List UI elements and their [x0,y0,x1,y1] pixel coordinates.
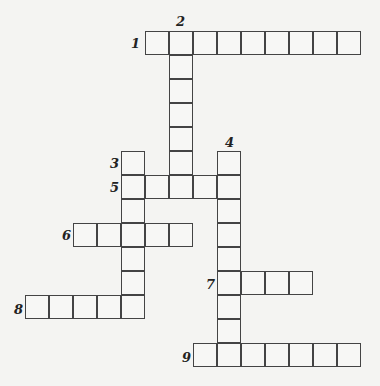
crossword-cell[interactable] [289,271,313,295]
crossword-cell[interactable] [169,223,193,247]
clue-number-7: 7 [206,278,215,291]
crossword-cell[interactable] [337,343,361,367]
clue-number-3: 3 [110,157,119,170]
crossword-cell[interactable] [217,271,241,295]
clue-number-9: 9 [182,351,191,364]
crossword-cell[interactable] [217,151,241,175]
crossword-cell[interactable] [313,343,337,367]
crossword-cell[interactable] [49,295,73,319]
crossword-cell[interactable] [217,247,241,271]
crossword-cell[interactable] [145,223,169,247]
crossword-cell[interactable] [145,175,169,199]
crossword-cell[interactable] [121,175,145,199]
crossword-cell[interactable] [217,343,241,367]
clue-number-8: 8 [14,303,23,316]
crossword-cell[interactable] [217,31,241,55]
crossword-cell[interactable] [121,295,145,319]
crossword-cell[interactable] [337,31,361,55]
crossword-cell[interactable] [193,31,217,55]
clue-number-1: 1 [131,37,140,50]
crossword-cell[interactable] [121,199,145,223]
crossword-cell[interactable] [169,55,193,79]
crossword-cell[interactable] [265,31,289,55]
crossword-cell[interactable] [217,175,241,199]
crossword-cell[interactable] [121,271,145,295]
crossword-cell[interactable] [73,223,97,247]
clue-number-6: 6 [62,229,71,242]
crossword-cell[interactable] [145,31,169,55]
crossword-cell[interactable] [121,223,145,247]
clue-number-2: 2 [176,15,185,28]
crossword-cell[interactable] [241,343,265,367]
crossword-cell[interactable] [217,199,241,223]
crossword-cell[interactable] [97,295,121,319]
crossword-cell[interactable] [265,343,289,367]
crossword-cell[interactable] [121,247,145,271]
crossword-cell[interactable] [313,31,337,55]
crossword-cell[interactable] [169,79,193,103]
clue-number-4: 4 [225,136,234,149]
clue-number-5: 5 [110,181,119,194]
crossword-cell[interactable] [217,319,241,343]
crossword-cell[interactable] [289,31,313,55]
crossword-cell[interactable] [169,127,193,151]
crossword-cell[interactable] [121,151,145,175]
crossword-cell[interactable] [289,343,313,367]
crossword-cell[interactable] [193,343,217,367]
crossword-cell[interactable] [265,271,289,295]
crossword-cell[interactable] [25,295,49,319]
crossword-cell[interactable] [73,295,97,319]
crossword-cell[interactable] [169,151,193,175]
crossword-cell[interactable] [169,31,193,55]
crossword-cell[interactable] [217,223,241,247]
crossword-cell[interactable] [169,103,193,127]
crossword-cell[interactable] [97,223,121,247]
crossword-cell[interactable] [241,271,265,295]
crossword-cell[interactable] [217,295,241,319]
crossword-cell[interactable] [193,175,217,199]
crossword-cell[interactable] [169,175,193,199]
crossword-cell[interactable] [241,31,265,55]
